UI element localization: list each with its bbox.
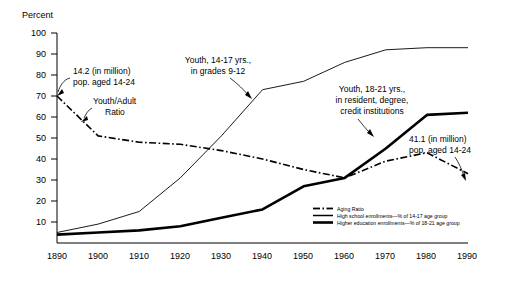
annotation-youth-adult-ratio: Youth/Adult Ratio: [81, 96, 137, 122]
leader-line: [58, 78, 70, 92]
y-tick-label: 40: [36, 154, 46, 164]
x-tick-labels: 1890 1900 1910 1920 1930 1940 1950 1960 …: [47, 251, 477, 261]
arrowhead-icon: [367, 129, 374, 137]
x-tick-label: 1920: [170, 251, 190, 261]
legend-label-higher-education: Higher education enrollments—% of 18-21 …: [337, 220, 460, 226]
x-tick-label: 1960: [334, 251, 354, 261]
axis-lines: [57, 33, 468, 243]
legend-label-high-school: High school enrollments—% of 14-17 age g…: [337, 213, 448, 219]
legend-label-aging-ratio: Aging Ratio: [337, 206, 364, 212]
annotation-line: Youth, 18-21 yrs.,: [339, 84, 405, 94]
y-tick-label: 10: [36, 217, 46, 227]
y-tick-label: 90: [36, 49, 46, 59]
annotation-line: in resident, degree,: [336, 95, 409, 105]
x-tick-label: 1940: [252, 251, 272, 261]
annotation-line: in grades 9-12: [191, 66, 246, 76]
annotation-line: credit institutions: [340, 106, 403, 116]
leader-line: [455, 157, 464, 176]
annotation-line: Youth/Adult: [93, 96, 137, 106]
annotation-pop-1890: 14.2 (in million) pop. aged 14-24: [57, 66, 135, 96]
y-tick-label: 50: [36, 133, 46, 143]
x-tick-label: 1930: [211, 251, 231, 261]
y-tick-label: 30: [36, 175, 46, 185]
line-chart: Percent 100 90 80 70 60 50 40 30 20: [0, 0, 512, 288]
arrowhead-icon: [461, 173, 466, 181]
legend: Aging Ratio High school enrollments—% of…: [313, 206, 460, 226]
y-tick-label: 70: [36, 91, 46, 101]
leader-line: [358, 119, 370, 133]
chart-page: Percent 100 90 80 70 60 50 40 30 20: [0, 0, 512, 288]
arrowhead-icon: [57, 89, 64, 96]
y-tick-label: 60: [36, 112, 46, 122]
x-tick-label: 1950: [293, 251, 313, 261]
x-tick-label: 1900: [88, 251, 108, 261]
annotation-high-school: Youth, 14-17 yrs., in grades 9-12: [185, 55, 252, 99]
annotation-higher-education: Youth, 18-21 yrs., in resident, degree, …: [336, 84, 409, 137]
annotation-line: 14.2 (in million): [73, 66, 131, 76]
annotation-line: pop. aged 14-24: [409, 145, 471, 155]
annotation-line: 41.1 (in million): [409, 134, 467, 144]
y-tickmarks: [51, 33, 57, 222]
leader-line: [230, 78, 248, 95]
annotation-pop-1990: 41.1 (in million) pop. aged 14-24: [409, 134, 471, 181]
y-tick-labels: 100 90 80 70 60 50 40 30 20 10: [31, 28, 46, 227]
x-tick-label: 1980: [416, 251, 436, 261]
annotation-line: Ratio: [105, 107, 125, 117]
x-tick-label: 1990: [457, 251, 477, 261]
annotation-line: pop. aged 14-24: [73, 77, 135, 87]
x-tick-label: 1970: [375, 251, 395, 261]
y-tick-label: 20: [36, 196, 46, 206]
x-tick-label: 1890: [47, 251, 67, 261]
annotation-line: Youth, 14-17 yrs.,: [185, 55, 251, 65]
y-axis-title: Percent: [22, 10, 54, 20]
x-tick-label: 1910: [129, 251, 149, 261]
y-tick-label: 80: [36, 70, 46, 80]
leader-line: [84, 108, 92, 118]
y-tick-label: 100: [31, 28, 46, 38]
